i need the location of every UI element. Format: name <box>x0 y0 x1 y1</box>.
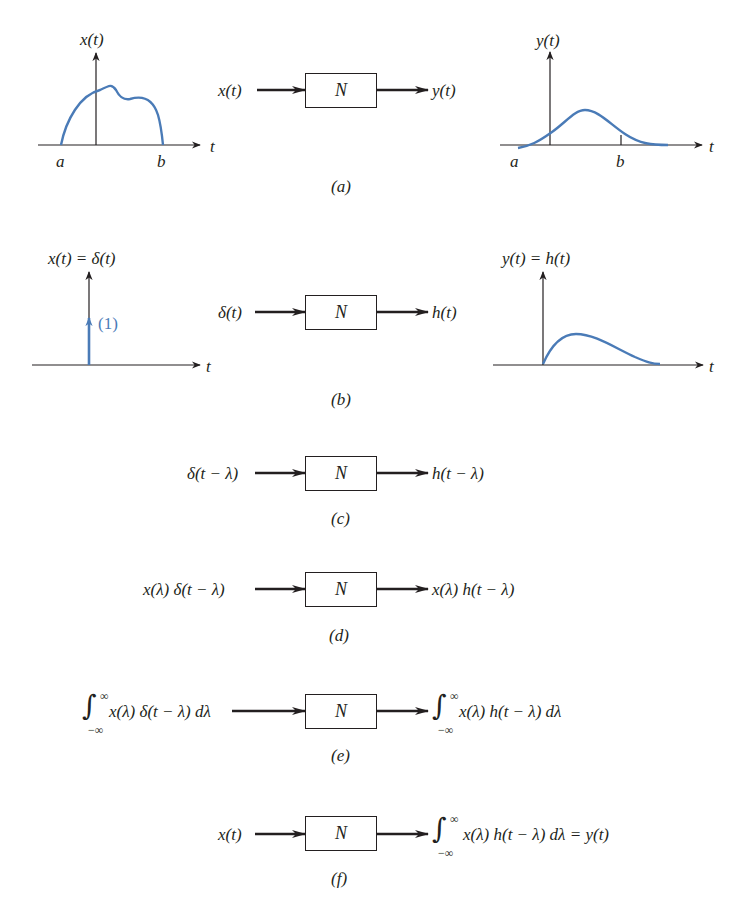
input-signal-f: x(t) <box>218 826 242 843</box>
input-signal-b: δ(t) <box>218 304 242 321</box>
input-signal-c: δ(t − λ) <box>187 465 238 482</box>
caption-c: (c) <box>331 510 350 527</box>
system-box-d: N <box>305 572 377 607</box>
input-signal-a: x(t) <box>218 82 242 99</box>
integral-lower-limit: −∞ <box>438 847 453 859</box>
signal-x-curve <box>61 86 163 145</box>
integral-upper-limit: ∞ <box>100 690 109 702</box>
system-box-a: N <box>305 73 377 108</box>
integral-sign: ∫ <box>432 815 447 843</box>
system-label: N <box>335 701 347 722</box>
output-signal-a: y(t) <box>432 82 456 99</box>
integral-upper-limit: ∞ <box>450 690 459 702</box>
integral-sign: ∫ <box>432 692 447 720</box>
integral-lower-limit: −∞ <box>88 724 103 736</box>
tick-label-b-output: b <box>616 153 625 170</box>
output-signal-c: h(t − λ) <box>432 465 484 482</box>
system-label: N <box>335 80 347 101</box>
plot-a-input-ylabel: x(t) <box>80 31 104 48</box>
system-box-e: N <box>305 694 377 729</box>
system-label: N <box>335 823 347 844</box>
plot-b-output <box>493 272 703 365</box>
tick-label-a: a <box>56 153 65 170</box>
system-label: N <box>335 463 347 484</box>
plot-a-input <box>38 53 200 145</box>
integral-lower-limit: −∞ <box>438 724 453 736</box>
plot-b-output-xlabel: t <box>709 358 714 375</box>
integrand: x(λ) h(t − λ) dλ = y(t) <box>463 826 609 843</box>
plot-a-output-xlabel: t <box>709 138 714 155</box>
signal-h-curve <box>543 334 660 364</box>
system-label: N <box>335 302 347 323</box>
impulse-weight-label: (1) <box>98 315 118 332</box>
input-signal-d: x(λ) δ(t − λ) <box>143 581 225 598</box>
tick-label-a-output: a <box>510 153 519 170</box>
caption-d: (d) <box>329 627 349 644</box>
plot-b-input-ylabel: x(t) = δ(t) <box>48 250 116 267</box>
plot-b-input-xlabel: t <box>206 358 211 375</box>
plot-a-output <box>500 52 702 148</box>
system-box-c: N <box>305 456 377 491</box>
integrand: x(λ) δ(t − λ) dλ <box>109 703 211 720</box>
tick-label-b: b <box>157 153 166 170</box>
integral-sign: ∫ <box>82 692 97 720</box>
integrand: x(λ) h(t − λ) dλ <box>459 703 561 720</box>
output-signal-b: h(t) <box>432 304 457 321</box>
caption-e: (e) <box>331 747 350 764</box>
caption-f: (f) <box>331 870 347 887</box>
caption-b: (b) <box>331 391 351 408</box>
plot-b-output-ylabel: y(t) = h(t) <box>502 250 570 267</box>
plot-a-output-ylabel: y(t) <box>536 32 560 49</box>
plot-a-input-xlabel: t <box>210 138 215 155</box>
output-signal-d: x(λ) h(t − λ) <box>432 581 514 598</box>
system-box-f: N <box>305 816 377 851</box>
caption-a: (a) <box>331 178 351 195</box>
signal-y-curve <box>518 110 668 148</box>
integral-upper-limit: ∞ <box>450 813 459 825</box>
system-box-b: N <box>305 295 377 330</box>
system-label: N <box>335 579 347 600</box>
